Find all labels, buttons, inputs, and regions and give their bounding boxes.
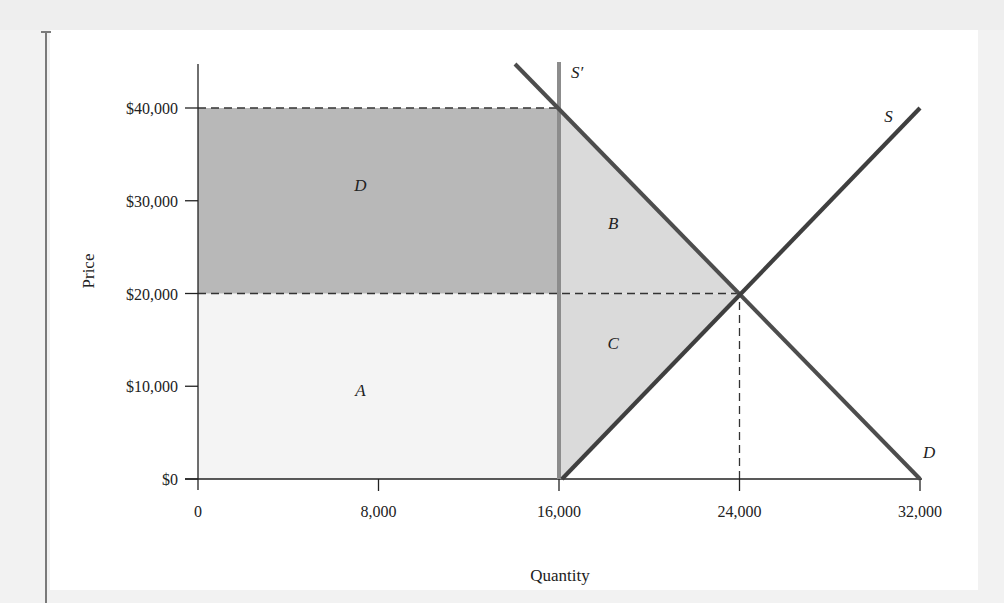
- region-label-b: B: [608, 214, 619, 233]
- x-tick-label: 0: [194, 503, 202, 520]
- supply-demand-chart: $0$10,000$20,000$30,000$40,00008,00016,0…: [0, 0, 1004, 603]
- x-tick-label: 24,000: [718, 503, 762, 520]
- y-tick-label: $10,000: [126, 378, 178, 395]
- curve-label: S′: [571, 63, 584, 82]
- region-label-a: A: [354, 381, 366, 400]
- x-tick-label: 32,000: [898, 503, 942, 520]
- x-tick-label: 8,000: [361, 503, 397, 520]
- region-label-c: C: [607, 334, 619, 353]
- y-tick-label: $20,000: [126, 286, 178, 303]
- x-tick-label: 16,000: [537, 503, 581, 520]
- y-tick-label: $0: [162, 471, 178, 488]
- region-label-d: D: [353, 176, 367, 195]
- x-axis-title: Quantity: [530, 566, 590, 585]
- curve-label: D: [922, 443, 936, 462]
- region-a: [198, 294, 559, 480]
- y-tick-label: $30,000: [126, 193, 178, 210]
- curve-label: S: [884, 107, 893, 126]
- y-tick-label: $40,000: [126, 100, 178, 117]
- y-axis-title: Price: [79, 254, 98, 289]
- region-d: [198, 108, 559, 294]
